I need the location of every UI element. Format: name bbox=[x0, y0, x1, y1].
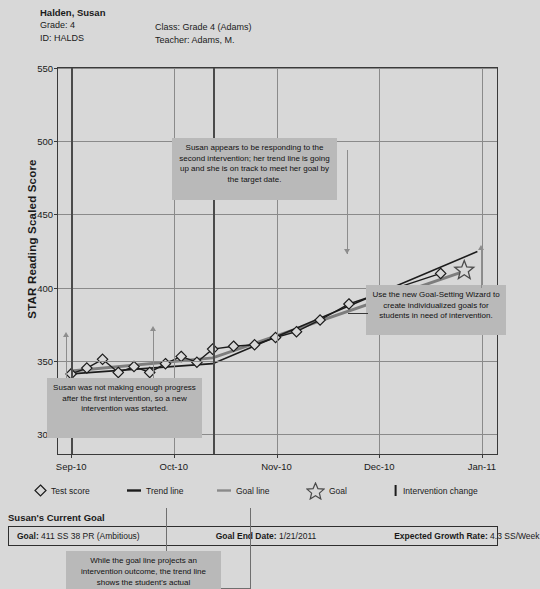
goal-star-marker bbox=[455, 261, 474, 279]
x-tick-label: Nov-10 bbox=[261, 461, 292, 472]
goal-end-date-value: 1/21/2011 bbox=[279, 531, 316, 541]
callout-trend-vs-goal: While the goal line projects an interven… bbox=[66, 551, 221, 589]
goal-panel-heading: Susan's Current Goal bbox=[8, 512, 105, 523]
callout-progress-arrow bbox=[63, 332, 69, 337]
intervention-change-line bbox=[213, 68, 215, 454]
class-label: Class: Grade 4 (Adams) bbox=[155, 21, 252, 34]
student-name: Halden, Susan bbox=[40, 6, 105, 19]
diamond-icon bbox=[34, 484, 47, 497]
y-tick-mark bbox=[54, 214, 58, 215]
x-tick-label: Dec-10 bbox=[364, 461, 395, 472]
callout-goal-wizard-leader bbox=[481, 248, 482, 288]
x-tick-label: Jan-11 bbox=[468, 461, 496, 472]
callout-responding-leader bbox=[347, 150, 348, 254]
bottom-note-line-left bbox=[166, 508, 167, 551]
x-tick-mark bbox=[482, 454, 483, 458]
class-info-block: Class: Grade 4 (Adams) Teacher: Adams, M… bbox=[155, 21, 252, 47]
legend-item-intervention-change: Intervention change bbox=[392, 484, 478, 497]
y-tick-mark bbox=[54, 141, 58, 142]
test-score-marker bbox=[82, 363, 92, 373]
callout-goal-wizard: Use the new Goal-Setting Wizard to creat… bbox=[366, 285, 506, 335]
y-tick-mark bbox=[54, 361, 58, 362]
star-icon bbox=[306, 482, 325, 500]
y-tick-label: 500 bbox=[37, 136, 53, 147]
y-tick-label: 350 bbox=[37, 355, 53, 366]
y-tick-mark bbox=[54, 68, 58, 69]
dark-line-icon bbox=[126, 484, 142, 497]
legend-label-trend-line: Trend line bbox=[146, 486, 183, 496]
expected-growth-value: 4.3 SS/Week bbox=[490, 531, 539, 541]
x-tick-label: Oct-10 bbox=[160, 461, 189, 472]
legend-item-goal-line: Goal line bbox=[216, 484, 270, 497]
x-gridline bbox=[277, 68, 278, 454]
y-tick-label: 450 bbox=[37, 209, 53, 220]
callout-responding-arrow bbox=[344, 249, 350, 254]
callout-goal-wizard-arrow bbox=[478, 245, 484, 250]
expected-growth-cell: Expected Growth Rate: 4.3 SS/Week bbox=[394, 531, 539, 541]
callout-intervention-leader bbox=[153, 330, 154, 378]
y-tick-label: 400 bbox=[37, 282, 53, 293]
bottom-note-line-right bbox=[250, 508, 251, 589]
vertical-bar-icon bbox=[392, 484, 399, 497]
legend-label-test-score: Test score bbox=[51, 486, 90, 496]
gray-line-icon bbox=[216, 484, 232, 497]
teacher-label: Teacher: Adams, M. bbox=[155, 34, 252, 47]
y-axis-label: STAR Reading Scaled Score bbox=[26, 129, 38, 349]
goal-value-cell: Goal: 411 SS 38 PR (Ambitious) bbox=[17, 531, 140, 541]
x-tick-label: Sep-10 bbox=[56, 461, 87, 472]
legend-item-test-score: Test score bbox=[34, 484, 90, 497]
student-grade: Grade: 4 bbox=[40, 19, 105, 32]
y-tick-label: 550 bbox=[37, 63, 53, 74]
legend-label-intervention-change: Intervention change bbox=[403, 486, 478, 496]
callout-responding: Susan appears to be responding to the se… bbox=[172, 138, 337, 200]
legend-label-goal: Goal bbox=[329, 486, 347, 496]
legend-item-trend-line: Trend line bbox=[126, 484, 183, 497]
goal-star bbox=[455, 261, 474, 279]
callout-not-enough-progress: Susan was not making enough progress aft… bbox=[47, 378, 202, 438]
callout-goal-wizard-tail bbox=[348, 313, 368, 314]
goal-key: Goal: bbox=[17, 531, 39, 541]
x-gridline bbox=[379, 68, 380, 454]
goal-end-date-key: Goal End Date: bbox=[216, 531, 277, 541]
expected-growth-key: Expected Growth Rate: bbox=[394, 531, 488, 541]
student-info-block: Halden, Susan Grade: 4 ID: HALDS bbox=[40, 6, 105, 45]
x-tick-mark bbox=[379, 454, 380, 458]
legend-label-goal-line: Goal line bbox=[236, 486, 270, 496]
goal-panel: Goal: 411 SS 38 PR (Ambitious) Goal End … bbox=[8, 526, 498, 546]
chart-legend: Test score Trend line Goal line Goal Int… bbox=[0, 478, 506, 506]
callout-progress-leader bbox=[66, 336, 67, 378]
legend-item-goal: Goal bbox=[306, 482, 347, 500]
x-tick-mark bbox=[277, 454, 278, 458]
callout-intervention-arrow bbox=[150, 326, 156, 331]
x-tick-mark bbox=[71, 454, 72, 458]
y-tick-mark bbox=[54, 288, 58, 289]
student-id: ID: HALDS bbox=[40, 32, 105, 45]
x-tick-mark bbox=[174, 454, 175, 458]
goal-value: 411 SS 38 PR (Ambitious) bbox=[41, 531, 140, 541]
goal-end-date-cell: Goal End Date: 1/21/2011 bbox=[216, 531, 317, 541]
